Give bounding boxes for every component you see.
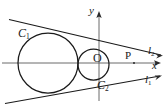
label-l1-subscript: 1	[148, 79, 151, 86]
label-circle-c1: C1	[18, 27, 30, 40]
line-l1-arrow-icon	[155, 76, 162, 81]
label-line-l1: l1	[145, 74, 151, 86]
tangent-line-l1	[5, 76, 160, 104]
x-axis	[2, 60, 161, 66]
geometry-canvas	[0, 0, 167, 109]
label-axis-y: y	[89, 5, 94, 16]
label-point-p: P	[125, 50, 131, 61]
label-origin: O	[93, 52, 102, 64]
label-c2-subscript: 2	[105, 84, 109, 93]
label-c1-subscript: 1	[26, 32, 30, 41]
label-line-l2: l2	[148, 45, 154, 57]
label-l2-subscript: 2	[151, 50, 154, 57]
geometry-figure: C1 C2 O P y x l1 l2	[0, 0, 167, 109]
label-circle-c2: C2	[97, 79, 109, 92]
label-axis-x: x	[152, 60, 157, 71]
label-c2-letter: C	[97, 78, 105, 92]
label-c1-letter: C	[18, 26, 26, 40]
point-p-marker	[133, 62, 135, 64]
